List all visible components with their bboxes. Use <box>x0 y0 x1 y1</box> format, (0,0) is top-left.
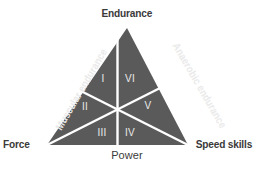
vertex-label-speed-skills: Speed skills <box>196 139 252 151</box>
edge-label-power: Power <box>0 150 254 161</box>
sector-5: V <box>145 101 152 111</box>
sector-4: IV <box>125 128 135 138</box>
sector-1: I <box>101 74 104 84</box>
sector-3: III <box>97 128 106 138</box>
sector-6: VI <box>125 74 135 84</box>
vertex-label-force: Force <box>3 139 30 151</box>
vertex-label-endurance: Endurance <box>0 8 254 20</box>
sector-2: II <box>82 102 88 112</box>
triangle-diagram: Endurance Force Speed skills Power Muscu… <box>0 0 254 172</box>
vertex-label-endurance-text: Endurance <box>102 8 153 20</box>
